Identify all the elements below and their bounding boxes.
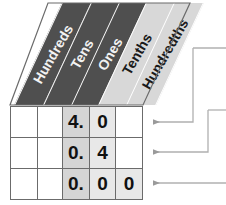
table-row: 0. 4 bbox=[11, 138, 143, 169]
cell-row2-hundredths bbox=[115, 138, 142, 169]
cell-row1-hundredths bbox=[115, 107, 142, 138]
cell-row2-tens bbox=[38, 138, 62, 169]
cell-row3-ones: 0. bbox=[62, 169, 89, 200]
place-value-chart-diagram: Hundreds Tens Ones Tenths Hundredths 4. … bbox=[0, 0, 226, 205]
connector-row-2 bbox=[154, 110, 226, 152]
cell-row3-hundreds bbox=[11, 169, 38, 200]
place-value-grid: 4. 0 0. 4 0. 0 0 bbox=[10, 106, 143, 200]
place-value-header-band: Hundreds Tens Ones Tenths Hundredths bbox=[0, 0, 226, 108]
cell-row2-hundreds bbox=[11, 138, 38, 169]
table-row: 0. 0 0 bbox=[11, 169, 143, 200]
cell-row1-tens bbox=[38, 107, 62, 138]
cell-row3-tenths: 0 bbox=[89, 169, 115, 200]
cell-row3-hundredths: 0 bbox=[115, 169, 142, 200]
cell-row1-hundreds bbox=[11, 107, 38, 138]
cell-row1-tenths: 0 bbox=[89, 107, 115, 138]
table-row: 4. 0 bbox=[11, 107, 143, 138]
cell-row1-ones: 4. bbox=[62, 107, 89, 138]
cell-row2-ones: 0. bbox=[62, 138, 89, 169]
cell-row3-tens bbox=[38, 169, 62, 200]
cell-row2-tenths: 4 bbox=[89, 138, 115, 169]
